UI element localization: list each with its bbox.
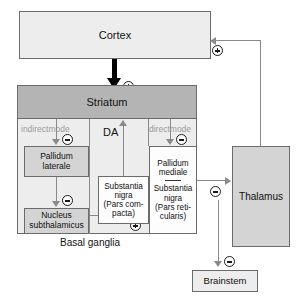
edge-striatum-to-pallidum-laterale xyxy=(56,119,57,140)
snpc-line1: Substantia xyxy=(103,182,143,191)
sign-pallidum-mediale-to-thalamus-minus xyxy=(210,186,221,197)
label-basal-ganglia: Basal ganglia xyxy=(60,237,120,248)
edge-pallidum-laterale-to-nucleus-arrowhead xyxy=(52,201,60,207)
node-nucleus-subthalamicus: Nucleus subthalamicus xyxy=(24,208,89,234)
sign-pallidum-laterale-to-nucleus-minus xyxy=(62,195,73,206)
edge-striatum-to-pallidum-mediale-arrowhead xyxy=(166,139,174,145)
sign-striatum-to-pallidum-mediale-minus xyxy=(176,134,187,145)
edge-striatum-to-pallidum-laterale-arrowhead xyxy=(52,139,60,145)
edge-pallidum-mediale-to-thalamus xyxy=(197,180,227,181)
brainstem-label: Brainstem xyxy=(204,276,247,287)
pallidum-mediale-line5: (Pars reti- xyxy=(154,203,193,212)
node-cortex: Cortex xyxy=(19,11,211,59)
striatum-label: Striatum xyxy=(87,96,128,108)
pallidum-mediale-line2: mediale xyxy=(154,168,193,177)
edge-snpc-to-striatum-arrowhead xyxy=(119,120,127,126)
pallidum-mediale-line3: Substantia xyxy=(154,184,193,193)
diagram-canvas: Cortex Striatum indirectmode directmode … xyxy=(0,0,300,302)
pallidum-mediale-separator xyxy=(165,180,181,181)
node-thalamus: Thalamus xyxy=(232,146,290,247)
node-brainstem: Brainstem xyxy=(192,270,258,292)
edge-thalamus-to-cortex-vertical xyxy=(260,40,261,146)
edge-snpc-to-striatum xyxy=(123,126,124,176)
edge-thalamus-to-cortex-horizontal xyxy=(216,40,261,41)
edge-pallidum-mediale-to-thalamus-arrowhead xyxy=(225,177,231,185)
edge-striatum-to-pallidum-mediale xyxy=(170,119,171,140)
pallidum-mediale-line4: nigra xyxy=(154,194,193,203)
snpc-line3: (Pars com- xyxy=(103,200,143,209)
sign-pallidum-mediale-to-brainstem-minus xyxy=(224,256,235,267)
edge-thalamus-to-cortex-arrowhead xyxy=(210,37,216,45)
cortex-label: Cortex xyxy=(99,29,131,41)
sign-striatum-to-pallidum-laterale-minus xyxy=(62,134,73,145)
edge-pallidum-laterale-to-nucleus xyxy=(56,177,57,203)
thalamus-label: Thalamus xyxy=(239,191,283,202)
edge-pallidum-mediale-to-brainstem xyxy=(218,200,219,262)
node-pallidum-laterale: Pallidum laterale xyxy=(24,146,89,177)
snpc-line4: pacta) xyxy=(103,209,143,218)
label-indirect-mode: indirectmode xyxy=(21,124,65,134)
nucleus-subthalamicus-line2: subthalamicus xyxy=(29,221,83,231)
divider-left xyxy=(89,119,90,234)
snpc-line2: nigra xyxy=(103,191,143,200)
node-substantia-nigra-pars-compacta: Substantia nigra (Pars com- pacta) xyxy=(98,176,149,224)
label-da: DA xyxy=(103,126,118,138)
edge-pallidum-mediale-to-brainstem-arrowhead xyxy=(214,261,222,267)
pallidum-mediale-line6: cularis) xyxy=(154,212,193,221)
node-striatum: Striatum xyxy=(17,85,197,119)
pallidum-mediale-line1: Pallidum xyxy=(154,159,193,168)
pallidum-laterale-line2: laterale xyxy=(40,162,73,172)
node-pallidum-mediale-substantia-nigra-reticularis: Pallidum mediale Substantia nigra (Pars … xyxy=(149,146,197,234)
sign-thalamus-to-cortex-plus xyxy=(212,45,223,56)
